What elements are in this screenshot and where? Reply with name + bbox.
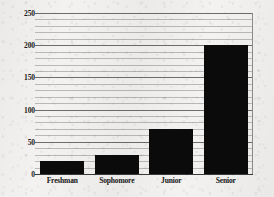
bar[interactable] bbox=[204, 45, 248, 174]
bar[interactable] bbox=[95, 155, 139, 174]
x-axis: FreshmanSophomoreJuniorSenior bbox=[35, 176, 253, 190]
y-tick-label: 200 bbox=[24, 41, 35, 50]
bar-slot bbox=[144, 13, 199, 174]
x-tick-label: Freshman bbox=[35, 176, 90, 185]
x-tick-label: Junior bbox=[144, 176, 199, 185]
bar-slot bbox=[35, 13, 90, 174]
y-tick-label: 50 bbox=[28, 137, 35, 146]
bar-slot bbox=[199, 13, 254, 174]
bar-chart-figure: 050100150200250 FreshmanSophomoreJuniorS… bbox=[0, 0, 274, 197]
bars-group bbox=[35, 13, 253, 174]
x-tick-label: Sophomore bbox=[90, 176, 145, 185]
x-tick-label: Senior bbox=[199, 176, 254, 185]
bar[interactable] bbox=[40, 161, 84, 174]
y-tick-label: 150 bbox=[24, 73, 35, 82]
bar-slot bbox=[90, 13, 145, 174]
bar[interactable] bbox=[149, 129, 193, 174]
axis-baseline bbox=[35, 174, 253, 175]
y-tick-label: 250 bbox=[24, 9, 35, 18]
y-tick-label: 100 bbox=[24, 105, 35, 114]
